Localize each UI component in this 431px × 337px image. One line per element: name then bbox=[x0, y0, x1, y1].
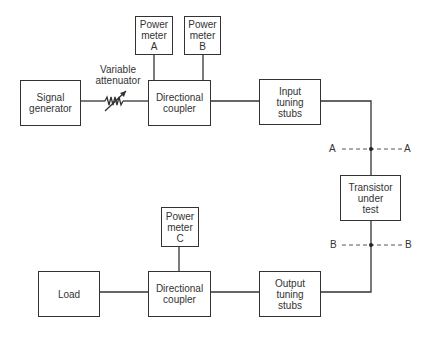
plane-a-left-label: A bbox=[329, 143, 336, 154]
plane-b-left-label: B bbox=[330, 239, 337, 250]
power-meter-c-block: Power meter C bbox=[161, 207, 199, 247]
power-meter-b-block: Power meter B bbox=[184, 16, 221, 55]
plane-b-right-label: B bbox=[405, 239, 412, 250]
signal-generator-block: Signal generator bbox=[20, 80, 81, 126]
transistor-under-test-block: Transistor under test bbox=[340, 175, 401, 221]
variable-attenuator-label: Variable attenuator bbox=[88, 64, 148, 86]
directional-coupler-top-block: Directional coupler bbox=[148, 80, 211, 126]
power-meter-a-block: Power meter A bbox=[135, 16, 173, 55]
directional-coupler-bottom-block: Directional coupler bbox=[148, 271, 211, 317]
output-tuning-stubs-block: Output tuning stubs bbox=[259, 271, 321, 317]
input-tuning-stubs-block: Input tuning stubs bbox=[259, 79, 321, 125]
load-block: Load bbox=[38, 271, 100, 317]
plane-a-right-label: A bbox=[404, 143, 411, 154]
